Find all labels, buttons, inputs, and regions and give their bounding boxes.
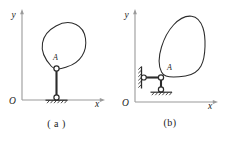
panel-a-x-axis-label: x bbox=[94, 99, 100, 109]
panel-a-x-axis-arrowhead bbox=[100, 98, 105, 102]
panel-b: y x O A bbox=[122, 9, 218, 111]
panel-a-pin-joint-a bbox=[54, 66, 59, 71]
panel-a: y x O A bbox=[9, 9, 105, 109]
panel-b-x-axis-label: x bbox=[207, 101, 213, 111]
panel-a-point-a-label: A bbox=[52, 53, 58, 62]
panel-b-y-axis-label: y bbox=[124, 10, 130, 20]
panel-b-x-axis bbox=[135, 100, 218, 104]
figure-container: y x O A bbox=[0, 0, 227, 145]
panel-a-y-axis bbox=[20, 9, 24, 100]
panel-b-point-a-label: A bbox=[166, 63, 172, 72]
panel-a-y-axis-arrowhead bbox=[20, 9, 24, 14]
panel-a-origin-label: O bbox=[9, 96, 16, 106]
panel-b-wall-pin-circle bbox=[141, 75, 146, 80]
panel-b-caption: (b) bbox=[113, 117, 227, 128]
panel-b-x-axis-arrowhead bbox=[213, 100, 218, 104]
panel-b-wall-pin-support bbox=[138, 67, 146, 89]
panel-a-ground-pin-circle bbox=[54, 95, 59, 100]
panel-b-y-axis-arrowhead bbox=[133, 9, 137, 14]
panel-a-y-axis-label: y bbox=[11, 10, 17, 20]
panel-b-origin-label: O bbox=[122, 98, 129, 108]
panel-a-caption: ( a ) bbox=[0, 118, 113, 129]
panel-b-y-axis bbox=[133, 9, 137, 102]
panel-a-rigid-body-outline bbox=[42, 23, 86, 69]
panel-a-ground-pin-support bbox=[46, 95, 68, 103]
panel-b-ground-pin-circle bbox=[158, 87, 163, 92]
panel-b-ground-pin-support bbox=[151, 87, 173, 95]
panel-b-pin-joint-a bbox=[158, 75, 163, 80]
